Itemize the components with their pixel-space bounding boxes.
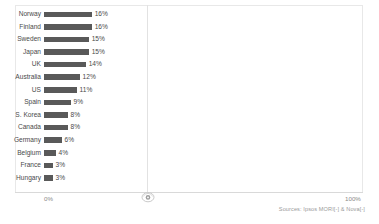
- bar-row: Canada8%: [0, 121, 379, 134]
- bar-category-label: Japan: [0, 49, 44, 56]
- bar-value-label: 3%: [56, 175, 66, 182]
- bar-category-label: Germany: [0, 137, 44, 144]
- bar-category-label: Canada: [0, 124, 44, 131]
- bar-value-label: 4%: [59, 150, 69, 157]
- bar-value-label: 15%: [92, 49, 105, 56]
- bar-category-label: Spain: [0, 99, 44, 106]
- bar-value-label: 14%: [89, 61, 102, 68]
- bar-value-label: 11%: [80, 87, 93, 94]
- bar-row: Spain9%: [0, 96, 379, 109]
- bar-value-label: 8%: [71, 112, 81, 119]
- bar-category-label: Sweden: [0, 36, 44, 43]
- bar-row: UK14%: [0, 58, 379, 71]
- bar-row: US11%: [0, 84, 379, 97]
- bar-chart: Norway16%Finland16%Sweden15%Japan15%UK14…: [0, 0, 379, 224]
- x-axis-tick-min: 0%: [44, 196, 53, 202]
- bar[interactable]: [44, 12, 92, 18]
- bar-category-label: US: [0, 87, 44, 94]
- bar-row: Japan15%: [0, 46, 379, 59]
- bar-category-label: Norway: [0, 11, 44, 18]
- bar-category-label: S. Korea: [0, 112, 44, 119]
- bar-track: 15%: [44, 33, 379, 46]
- bar-track: 3%: [44, 159, 379, 172]
- bar[interactable]: [44, 150, 56, 156]
- bar-track: 6%: [44, 134, 379, 147]
- bar-row: Hungary3%: [0, 172, 379, 185]
- bar[interactable]: [44, 100, 71, 106]
- bar[interactable]: [44, 87, 77, 93]
- drag-handle-icon[interactable]: [141, 190, 155, 203]
- bar-track: 11%: [44, 84, 379, 97]
- bar-row: Germany6%: [0, 134, 379, 147]
- bar-category-label: Hungary: [0, 175, 44, 182]
- bar-category-label: UK: [0, 61, 44, 68]
- bar-track: 16%: [44, 8, 379, 21]
- bar-row: S. Korea8%: [0, 109, 379, 122]
- bar-track: 9%: [44, 96, 379, 109]
- bar[interactable]: [44, 49, 89, 55]
- bar-value-label: 6%: [65, 137, 75, 144]
- bar-category-label: Australia: [0, 74, 44, 81]
- bar-track: 15%: [44, 46, 379, 59]
- bar[interactable]: [44, 24, 92, 30]
- bar[interactable]: [44, 125, 68, 131]
- bar-track: 4%: [44, 147, 379, 160]
- bar[interactable]: [44, 137, 62, 143]
- bar-value-label: 15%: [92, 36, 105, 43]
- bar[interactable]: [44, 112, 68, 118]
- bar-row: France3%: [0, 159, 379, 172]
- bar-track: 14%: [44, 58, 379, 71]
- bar-value-label: 8%: [71, 124, 81, 131]
- bar-row: Norway16%: [0, 8, 379, 21]
- bar[interactable]: [44, 175, 53, 181]
- bar-category-label: Belgium: [0, 150, 44, 157]
- source-note: Sources: Ipsos MORI[-] & Nova[-]: [279, 207, 365, 213]
- bar[interactable]: [44, 37, 89, 43]
- bar-value-label: 16%: [95, 24, 108, 31]
- bar[interactable]: [44, 62, 86, 68]
- bar-value-label: 16%: [95, 11, 108, 18]
- bar-row-list: Norway16%Finland16%Sweden15%Japan15%UK14…: [0, 8, 379, 184]
- bar-category-label: France: [0, 162, 44, 169]
- bar[interactable]: [44, 74, 80, 80]
- bar-track: 3%: [44, 172, 379, 185]
- bar-row: Belgium4%: [0, 147, 379, 160]
- bar-category-label: Finland: [0, 24, 44, 31]
- bar-value-label: 3%: [56, 162, 66, 169]
- x-axis-line: [15, 192, 363, 193]
- bar[interactable]: [44, 163, 53, 169]
- bar-track: 16%: [44, 21, 379, 34]
- bar-value-label: 12%: [83, 74, 96, 81]
- bar-row: Finland16%: [0, 21, 379, 34]
- bar-track: 8%: [44, 121, 379, 134]
- x-axis-tick-max: 100%: [345, 196, 361, 202]
- bar-track: 8%: [44, 109, 379, 122]
- bar-row: Sweden15%: [0, 33, 379, 46]
- bar-value-label: 9%: [74, 99, 84, 106]
- bar-track: 12%: [44, 71, 379, 84]
- bar-row: Australia12%: [0, 71, 379, 84]
